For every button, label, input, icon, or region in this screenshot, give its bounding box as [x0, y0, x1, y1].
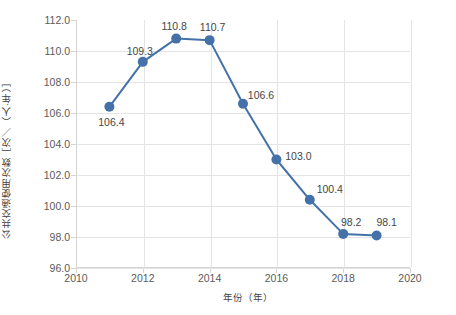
- line-chart: 公共交通使用次数［次／（人·年）］ 96.098.0100.0102.0104.…: [0, 0, 456, 315]
- data-point-label: 110.7: [200, 21, 226, 33]
- data-point-label: 106.6: [248, 89, 274, 101]
- data-point-label: 98.2: [341, 216, 361, 228]
- series-line: [109, 39, 376, 236]
- data-point: [104, 102, 114, 112]
- data-point-label: 98.1: [376, 216, 396, 228]
- data-point: [338, 229, 348, 239]
- x-axis-title-text: 年份（年）: [183, 290, 274, 304]
- data-point-label: 100.4: [317, 183, 343, 195]
- data-point: [138, 57, 148, 67]
- data-point: [238, 99, 248, 109]
- data-point-label: 106.4: [98, 116, 124, 128]
- data-point-label: 109.3: [127, 45, 153, 57]
- series-layer: [0, 0, 456, 315]
- data-point-label: 110.8: [161, 20, 187, 32]
- data-point: [171, 34, 181, 44]
- data-point: [271, 155, 281, 165]
- series-markers: [104, 34, 381, 241]
- x-axis-title: 年份（年）: [0, 290, 456, 304]
- data-point: [305, 195, 315, 205]
- data-point-label: 103.0: [285, 150, 311, 162]
- data-point: [372, 230, 382, 240]
- data-point: [205, 35, 215, 45]
